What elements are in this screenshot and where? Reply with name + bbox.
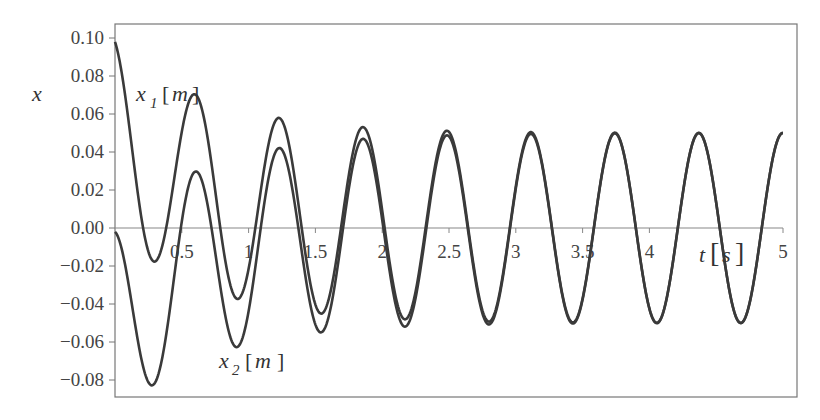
x2-label-base: x xyxy=(218,348,229,373)
x-tick-label: 3 xyxy=(511,241,521,262)
t-label-close: ] xyxy=(735,237,744,268)
chart: 0.100.080.060.040.020.00−0.02−0.04−0.06−… xyxy=(0,0,820,420)
y-tick-label: −0.08 xyxy=(60,369,104,390)
y-tick-label: 0.04 xyxy=(71,141,105,162)
curves xyxy=(115,42,783,386)
x2-label-open: [ xyxy=(245,348,252,373)
x1-label: x 1 [ m ] xyxy=(135,81,199,111)
x-tick-label: 2.5 xyxy=(437,241,461,262)
y-axis-label: x xyxy=(31,81,42,106)
y-tick-label: 0.02 xyxy=(71,179,104,200)
series-x1-line xyxy=(115,42,783,323)
t-label-var: t xyxy=(699,242,706,267)
x1-label-unit: m xyxy=(172,81,188,106)
x1-label-base: x xyxy=(135,81,146,106)
x2-label-unit: m xyxy=(255,348,271,373)
x2-label-close: ] xyxy=(277,348,284,373)
x1-label-open: [ xyxy=(162,81,169,106)
y-tick-label: −0.04 xyxy=(60,293,104,314)
t-label-open: [ xyxy=(710,237,719,268)
y-tick-label: 0.10 xyxy=(71,27,104,48)
x-tick-label: 4 xyxy=(645,241,655,262)
y-tick-label: 0.08 xyxy=(71,65,104,86)
x-tick-label: 0.5 xyxy=(170,241,194,262)
t-axis-label: t [ s ] xyxy=(699,237,744,268)
x2-label-sub: 2 xyxy=(232,362,240,378)
y-tick-label: −0.06 xyxy=(60,331,104,352)
y-axis-ticks: 0.100.080.060.040.020.00−0.02−0.04−0.06−… xyxy=(60,27,115,390)
y-tick-label: 0.00 xyxy=(71,217,104,238)
y-tick-label: 0.06 xyxy=(71,103,104,124)
y-tick-label: −0.02 xyxy=(60,255,104,276)
x1-label-close: ] xyxy=(192,81,199,106)
x2-label: x 2 [ m ] xyxy=(218,348,284,378)
x-tick-label: 5 xyxy=(778,241,788,262)
t-label-unit: s xyxy=(722,242,731,267)
x1-label-sub: 1 xyxy=(150,95,158,111)
